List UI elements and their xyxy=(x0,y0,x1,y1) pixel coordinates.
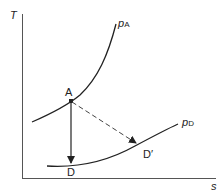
x-axis-label: s xyxy=(211,181,217,192)
pD-label: pD xyxy=(182,117,194,128)
pA-label: pA xyxy=(118,18,129,29)
ts-diagram: T s pA pD A D D′ xyxy=(0,0,222,196)
isobar-pA xyxy=(32,24,116,122)
y-axis-label: T xyxy=(10,10,17,21)
arrow-A-to-D-prime xyxy=(72,102,136,143)
isobar-pD xyxy=(47,124,178,166)
point-D-prime-label: D′ xyxy=(143,149,153,160)
point-D-label: D xyxy=(67,167,75,178)
point-A-label: A xyxy=(65,87,72,98)
diagram-graphics xyxy=(0,0,222,196)
